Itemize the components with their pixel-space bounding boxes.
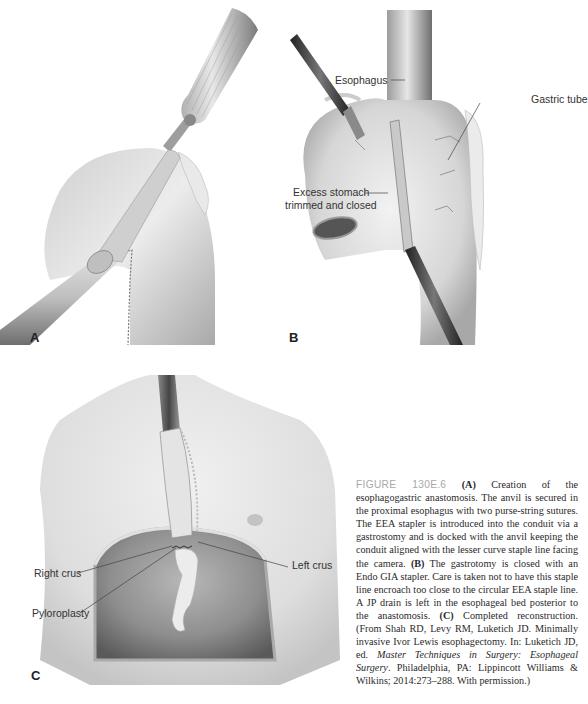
label-left-crus: Left crus <box>292 559 332 572</box>
caption-marker-b: (B) <box>411 558 425 569</box>
label-esophagus: Esophagus <box>335 74 388 87</box>
anastomosis-creation-drawing <box>0 0 290 345</box>
label-pyloroplasty: Pyloroplasty <box>32 607 89 620</box>
panel-letter-a: A <box>30 330 39 345</box>
label-right-crus: Right crus <box>34 567 81 580</box>
figure-number: FIGURE 130E.6 <box>356 479 446 490</box>
panel-letter-c: C <box>31 668 40 683</box>
figure-caption: FIGURE 130E.6 (A) Creation of the esopha… <box>356 478 578 688</box>
label-trimmed-closed: trimmed and closed <box>285 199 377 212</box>
label-excess-stomach: Excess stomach <box>293 186 369 199</box>
caption-marker-a: (A) <box>462 479 476 490</box>
label-gastric-tube: Gastric tube <box>531 93 588 106</box>
nipple <box>247 514 263 526</box>
panel-a-illustration: A <box>0 0 290 345</box>
esophagus-shape <box>181 8 258 124</box>
caption-source-tail: . Philadelphia, PA: Lippincott Williams … <box>356 662 578 686</box>
caption-text-a: Creation of the esophagogastric anastomo… <box>356 479 578 569</box>
gastrotomy-closure-drawing <box>285 0 581 345</box>
completed-reconstruction-drawing <box>0 360 350 704</box>
panel-b-illustration: Esophagus Gastric tube Excess stomach tr… <box>285 0 581 345</box>
panel-letter-b: B <box>289 330 298 345</box>
esophagus-shape <box>387 10 432 105</box>
caption-marker-c: (C) <box>440 610 454 621</box>
panel-c-illustration: Right crus Left crus Pyloroplasty C <box>0 360 350 704</box>
